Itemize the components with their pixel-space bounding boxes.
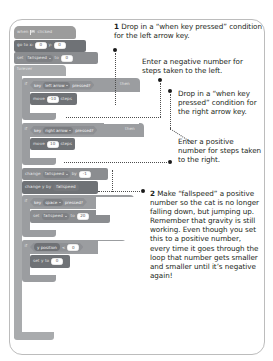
key-label-space: key <box>34 200 41 205</box>
when-label: when <box>17 30 28 34</box>
leader-bullet-right-arrow <box>168 89 172 93</box>
leader-bullet-negative <box>158 78 162 82</box>
go-to-x-input[interactable]: 0 <box>35 42 47 49</box>
change-fallspeed-value-input[interactable]: -1 <box>79 171 91 178</box>
clicked-label: clicked <box>37 30 52 34</box>
set-fallspeed-20-input[interactable]: 20 <box>77 213 89 220</box>
block-move-10[interactable]: move 10 steps <box>30 138 75 150</box>
block-set-y-to-0[interactable]: set y to 0 <box>30 255 70 268</box>
block-change-fallspeed[interactable]: change fallspeed by -1 <box>22 168 108 180</box>
leader-line-note2-stub <box>98 191 114 192</box>
by-label: by <box>72 172 77 176</box>
leader-line-negative-v <box>160 83 161 117</box>
move-label-left: move <box>33 97 45 101</box>
text-mask-2 <box>113 153 137 167</box>
go-to-y-input[interactable]: 0 <box>54 42 66 49</box>
note-negative-text: Enter a negative number for steps taken … <box>142 57 243 75</box>
key-left-arrow-label: left arrow <box>45 83 65 88</box>
set-label: set <box>17 56 24 60</box>
to-label: to <box>55 56 59 60</box>
annotation-note-2: 2 Make “fallspeed” a positive number so … <box>150 189 262 280</box>
fallspeed-variable-dropdown-2[interactable]: fallspeed <box>43 171 70 178</box>
pressed-label-left: pressed? <box>72 83 90 88</box>
if-label-right: if <box>25 127 28 131</box>
block-change-y-by[interactable]: change y by fallspeed <box>22 181 98 194</box>
leader-line-negative-h <box>66 117 161 118</box>
pressed-label-space: pressed? <box>65 200 83 205</box>
leader-line-right-arrow-v <box>170 94 171 128</box>
set-y-to-label: set y to <box>33 259 49 263</box>
note-right-arrow-text: Drop in a “when key pressed” condition f… <box>178 89 257 116</box>
text-mask-3 <box>96 197 140 215</box>
leader-line-note1 <box>115 53 116 105</box>
set-fallspeed-value-input[interactable]: 0 <box>61 55 73 62</box>
block-move-negative-10[interactable]: move -10 steps <box>30 93 77 105</box>
condition-y-position-less-than[interactable]: y position < 0 <box>30 243 83 252</box>
chevron-down-icon <box>66 85 68 86</box>
chevron-down-icon <box>65 216 67 217</box>
move-steps-negative-input[interactable]: -10 <box>47 96 59 103</box>
fallspeed-variable-dropdown-3[interactable]: fallspeed <box>42 213 69 220</box>
key-right-arrow-label: right arrow <box>45 128 68 133</box>
note-2-number: 2 <box>150 189 155 198</box>
annotation-negative-steps: Enter a negative number for steps taken … <box>142 57 264 75</box>
leader-line-note2-v <box>112 170 113 192</box>
key-label-right: key <box>34 128 41 133</box>
block-when-flag-clicked[interactable]: when clicked <box>14 26 76 39</box>
page-root: when clicked go to x: 0 y: 0 set fallspe… <box>0 0 273 361</box>
leader-line-positive-h <box>64 162 169 163</box>
set-label-2: set <box>33 214 40 218</box>
go-to-y-label: y: <box>48 43 52 47</box>
green-flag-icon <box>30 30 35 35</box>
key-left-arrow-dropdown[interactable]: left arrow <box>43 82 70 89</box>
fallspeed-reporter[interactable]: fallspeed <box>53 184 79 192</box>
chevron-down-icon <box>59 202 61 203</box>
y-position-compare-input[interactable]: 0 <box>67 244 79 251</box>
block-set-fallspeed-0[interactable]: set fallspeed to 0 <box>14 52 98 64</box>
condition-key-space-pressed[interactable]: key space pressed? <box>30 198 87 207</box>
change-label: change <box>25 172 41 176</box>
move-label-right: move <box>33 142 45 146</box>
note-2-text: Make “fallspeed” a positive number so th… <box>150 189 259 280</box>
fallspeed-variable-label-2: fallspeed <box>45 172 65 176</box>
forever-label: forever <box>17 67 32 71</box>
set-y-value-input[interactable]: 0 <box>51 258 63 265</box>
if-label-left: if <box>25 82 28 86</box>
fallspeed-variable-dropdown[interactable]: fallspeed <box>26 55 53 62</box>
steps-label-left: steps <box>60 97 72 101</box>
block-go-to-xy[interactable]: go to x: 0 y: 0 <box>14 40 86 52</box>
move-steps-positive-input[interactable]: 10 <box>47 141 59 148</box>
condition-key-right-arrow-pressed[interactable]: key right arrow pressed? <box>30 126 97 135</box>
key-space-label: space <box>45 200 57 205</box>
text-mask-5 <box>58 286 140 302</box>
key-space-dropdown[interactable]: space <box>43 199 63 206</box>
text-mask-4 <box>98 241 142 257</box>
go-to-x-label: go to x: <box>17 43 33 47</box>
key-label-left: key <box>34 83 41 88</box>
text-mask-6 <box>127 112 139 124</box>
key-right-arrow-dropdown[interactable]: right arrow <box>43 127 73 134</box>
condition-key-left-arrow-pressed[interactable]: key left arrow pressed? <box>30 81 94 90</box>
chevron-down-icon <box>49 58 51 59</box>
less-than-operator: < <box>62 245 65 250</box>
note-1-number: 1 <box>114 22 119 31</box>
then-label-right: then <box>125 127 135 131</box>
chevron-down-icon <box>69 130 71 131</box>
leader-line-note2-h <box>112 191 142 192</box>
note-1-text: Drop in a “when key pressed” condition f… <box>114 22 262 40</box>
if-label-space: if <box>25 199 28 203</box>
steps-label-right: steps <box>60 142 72 146</box>
fallspeed-variable-label: fallspeed <box>28 56 48 60</box>
annotation-note-1: 1 Drop in a “when key pressed” condition… <box>114 22 262 40</box>
chevron-down-icon <box>66 174 68 175</box>
leader-bullet-note1 <box>113 48 117 52</box>
fallspeed-variable-label-3: fallspeed <box>44 214 64 218</box>
annotation-right-arrow: Drop in a “when key pressed” condition f… <box>178 89 262 116</box>
change-y-by-label: change y by <box>25 185 51 189</box>
then-label-left: then <box>120 82 130 86</box>
pressed-label-right: pressed? <box>75 128 93 133</box>
to-label-2: to <box>71 214 75 218</box>
y-position-reporter[interactable]: y position <box>34 243 60 251</box>
if-label-ypos: if <box>25 244 28 248</box>
